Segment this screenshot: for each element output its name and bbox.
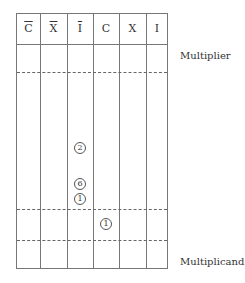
work-divider bbox=[17, 209, 167, 210]
marker-circle: 6 bbox=[74, 178, 86, 190]
column-divider bbox=[67, 14, 68, 268]
column-divider bbox=[119, 14, 120, 268]
marker-circle: 1 bbox=[100, 218, 112, 230]
multiplicand-divider bbox=[17, 240, 167, 241]
header-x: X bbox=[119, 14, 146, 44]
column-divider bbox=[93, 14, 94, 268]
column-divider bbox=[146, 14, 147, 268]
multiplicand-label: Multiplicand bbox=[180, 256, 244, 267]
multiplier-label: Multiplier bbox=[180, 50, 231, 61]
header-i-bar: I bbox=[67, 14, 93, 44]
header-divider bbox=[17, 44, 167, 45]
marker-circle: 2 bbox=[74, 142, 86, 154]
multiplier-divider bbox=[17, 72, 167, 73]
header-c-bar: C bbox=[17, 14, 40, 44]
abacus-grid: C X I C X I 2 6 1 1 bbox=[16, 13, 168, 269]
header-c: C bbox=[93, 14, 119, 44]
column-divider bbox=[40, 14, 41, 268]
header-i: I bbox=[146, 14, 168, 44]
marker-circle: 1 bbox=[74, 193, 86, 205]
header-x-bar: X bbox=[40, 14, 67, 44]
